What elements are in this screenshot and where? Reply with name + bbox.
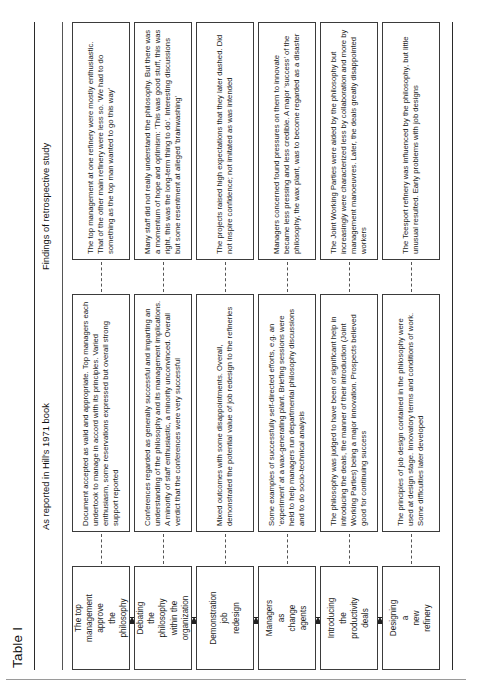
table-body: The topmanagementapprovethephilosophy Do…	[70, 22, 446, 670]
book-cell: Conferences regarded as generally succes…	[134, 294, 192, 532]
rotated-page-stage: Table I As reported in Hill's 1971 book …	[0, 0, 481, 690]
row-connector-dashed	[382, 532, 440, 566]
book-cell: Mixed outcomes with some disappointments…	[196, 294, 254, 532]
row-connector-dashed	[258, 532, 316, 566]
row-connector-dashed	[320, 260, 378, 294]
table-bottom-rule	[452, 22, 453, 670]
page-edge-line	[6, 679, 466, 680]
column-header-findings: Findings of retrospective study	[40, 143, 51, 270]
stage-box: Designinganewrefinery	[382, 566, 440, 670]
table-row: Introducingtheproductivitydeals The phil…	[320, 22, 378, 670]
table-i: Table I As reported in Hill's 1971 book …	[0, 0, 481, 690]
stage-box: Managersaschangeagents	[258, 566, 316, 670]
findings-cell: The Joint Working Parties were aided by …	[320, 22, 378, 260]
table-top-rule	[34, 22, 35, 670]
stage-box: Debatingthephilosophywithin theorganizat…	[134, 566, 192, 670]
book-cell: The principles of job design contained i…	[382, 294, 440, 532]
table-row: Managersaschangeagents Some examples of …	[258, 22, 316, 670]
row-connector-dashed	[134, 532, 192, 566]
row-connector-dashed	[72, 260, 130, 294]
findings-cell: The top management at one refinery were …	[72, 22, 130, 260]
row-connector-dashed	[320, 532, 378, 566]
row-connector-dashed	[196, 532, 254, 566]
table-header-rule	[62, 22, 63, 670]
table-row: The topmanagementapprovethephilosophy Do…	[72, 22, 130, 670]
table-title: Table I	[10, 627, 25, 668]
table-row: Demonstrationjobredesign Mixed outcomes …	[196, 22, 254, 670]
table-row: Designinganewrefinery The principles of …	[382, 22, 440, 670]
row-connector-dashed	[258, 260, 316, 294]
row-connector-dashed	[72, 532, 130, 566]
column-header-book: As reported in Hill's 1971 book	[40, 403, 51, 530]
findings-cell: The projects raised high expectations th…	[196, 22, 254, 260]
book-cell: Document accepted as valid and appropria…	[72, 294, 130, 532]
stage-box: Introducingtheproductivitydeals	[320, 566, 378, 670]
findings-cell: Managers concerned found pressures on th…	[258, 22, 316, 260]
table-row: Debatingthephilosophywithin theorganizat…	[134, 22, 192, 670]
stage-box: The topmanagementapprovethephilosophy	[72, 566, 130, 670]
row-connector-dashed	[196, 260, 254, 294]
row-connector-dashed	[134, 260, 192, 294]
findings-cell: Many staff did not really understand the…	[134, 22, 192, 260]
book-cell: Some examples of successfully self-direc…	[258, 294, 316, 532]
book-cell: The philosophy was judged to have been o…	[320, 294, 378, 532]
findings-cell: The Teesport refinery was influenced by …	[382, 22, 440, 260]
stage-box: Demonstrationjobredesign	[196, 566, 254, 670]
row-connector-dashed	[382, 260, 440, 294]
